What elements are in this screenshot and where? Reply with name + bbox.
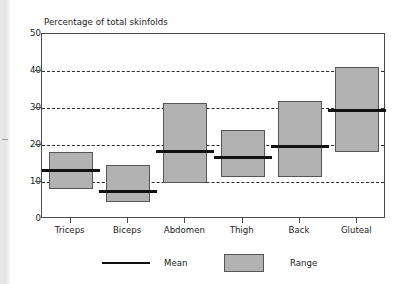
x-tick-label-abdomen: Abdomen [164, 225, 205, 235]
x-tick-label-biceps: Biceps [113, 225, 141, 235]
gridline-40 [42, 71, 384, 72]
mean-line-biceps [99, 190, 157, 193]
mean-line-abdomen [156, 150, 214, 153]
x-tick-mark-back [299, 218, 300, 223]
x-tick-label-thigh: Thigh [230, 225, 254, 235]
mean-line-thigh [214, 156, 272, 159]
range-bar-biceps [106, 165, 150, 202]
range-bar-abdomen [163, 103, 207, 183]
legend-label-mean: Mean [164, 258, 187, 268]
plot-inner [42, 34, 384, 217]
x-tick-label-gluteal: Gluteal [341, 225, 372, 235]
legend-mean-line-swatch [102, 262, 150, 264]
x-tick-mark-biceps [127, 218, 128, 223]
x-axis: TricepsBicepsAbdomenThighBackGluteal [41, 218, 385, 244]
chart-title: Percentage of total skinfolds [44, 17, 168, 27]
mean-line-triceps [42, 169, 100, 172]
x-tick-mark-abdomen [184, 218, 185, 223]
range-bar-thigh [221, 130, 265, 177]
range-bar-back [278, 101, 322, 177]
chart-figure: Percentage of total skinfolds 0102030405… [0, 0, 413, 284]
x-tick-label-back: Back [289, 225, 310, 235]
x-tick-mark-gluteal [356, 218, 357, 223]
plot-area [41, 33, 385, 218]
x-tick-label-triceps: Triceps [55, 225, 85, 235]
legend-label-range: Range [290, 258, 317, 268]
x-tick-mark-thigh [242, 218, 243, 223]
y-axis: 01020304050 [0, 33, 41, 218]
gridline-20 [42, 145, 384, 146]
x-tick-mark-triceps [70, 218, 71, 223]
y-tick-label-50: 50 [13, 28, 41, 38]
legend-range-box-swatch [224, 254, 264, 272]
mean-line-back [271, 145, 329, 148]
gridline-10 [42, 182, 384, 183]
mean-line-gluteal [328, 109, 386, 112]
chart-legend: MeanRange [0, 250, 413, 276]
y-tick-label-0: 0 [13, 213, 41, 223]
